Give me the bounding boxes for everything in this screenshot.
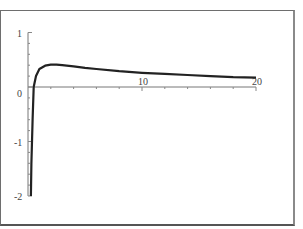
tick-marks xyxy=(28,33,256,197)
x-tick-label: 10 xyxy=(138,76,148,87)
y-tick-label: 0 xyxy=(17,88,22,99)
axes xyxy=(28,33,256,197)
line-chart: 102010-1-2 xyxy=(0,0,303,229)
y-tick-label: -2 xyxy=(14,191,22,202)
y-tick-label: -1 xyxy=(14,137,22,148)
tick-labels: 102010-1-2 xyxy=(14,28,262,203)
y-tick-label: 1 xyxy=(17,28,22,39)
